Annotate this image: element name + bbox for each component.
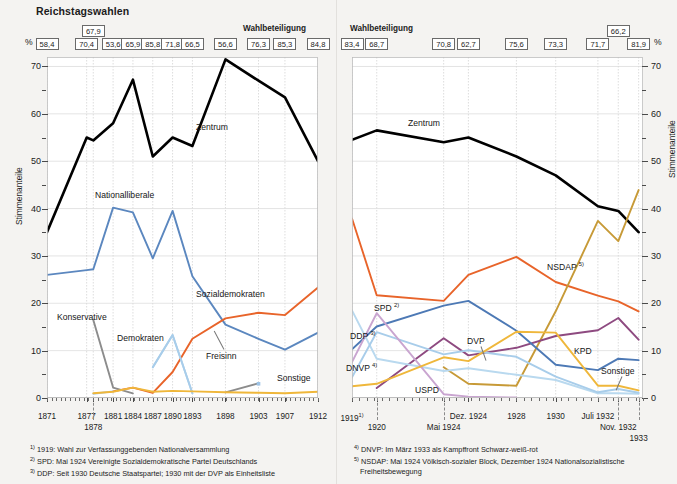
turnout-value-box: 76,3 — [247, 38, 270, 50]
series-label-sonstige: Sonstige — [277, 373, 310, 383]
x-minor-tick — [561, 398, 562, 401]
x-minor-tick — [258, 398, 259, 401]
y-tick-mark — [42, 256, 48, 257]
x-minor-tick — [231, 398, 232, 401]
turnout-value-box: 70,8 — [432, 38, 455, 50]
x-minor-tick — [70, 398, 71, 401]
footnote-item: 4) DNVP: Im März 1933 als Kampffront Sch… — [354, 443, 625, 455]
turnout-value-box: 75,6 — [505, 38, 528, 50]
footnote-item: 5) NSDAP: Mai 1924 Völkisch-sozialer Blo… — [354, 455, 625, 467]
y-tick-label: 10 — [19, 346, 41, 356]
x-minor-tick — [240, 398, 241, 401]
y-tick-label: 50 — [651, 156, 661, 166]
x-minor-tick — [116, 398, 117, 401]
x-tick-label: 1920 — [368, 423, 386, 432]
x-tick-label: Juli 1932 — [582, 412, 615, 421]
turnout-value-box: 68,7 — [365, 38, 388, 50]
x-minor-tick — [389, 398, 390, 401]
x-minor-tick — [295, 398, 296, 401]
x-minor-tick — [313, 398, 314, 401]
x-tick-label: 1871 — [38, 412, 56, 421]
x-tick-label: 1890 — [163, 412, 181, 421]
x-minor-tick — [222, 398, 223, 401]
footnote-item: 2) SPD: Mai 1924 Vereinigte Sozialdemokr… — [30, 455, 275, 467]
y-tick-mark — [642, 185, 646, 186]
y-tick-mark — [42, 138, 46, 139]
turnout-value-box: 71,7 — [586, 38, 609, 50]
y-tick-mark — [642, 209, 648, 210]
x-minor-tick — [539, 398, 540, 401]
x-tick-label: 1930 — [547, 412, 565, 421]
y-tick-mark — [42, 114, 48, 115]
x-tick-label: 1898 — [216, 412, 234, 421]
turnout-value-box: 73,3 — [544, 38, 567, 50]
x-minor-tick — [88, 398, 89, 401]
x-minor-tick — [546, 398, 547, 401]
series-label-freisinn: Freisinn — [206, 351, 237, 361]
footnotes-right: 4) DNVP: Im März 1933 als Kampffront Sch… — [354, 443, 625, 477]
series-label-sozialdemokraten: Sozialdemokraten — [196, 289, 265, 299]
y-tick-mark — [42, 374, 46, 375]
turnout-value-box: 62,7 — [457, 38, 480, 50]
y-tick-mark — [642, 66, 648, 67]
x-minor-tick — [254, 398, 255, 401]
x-minor-tick — [180, 398, 181, 401]
footnote-item: Freiheitsbewegung — [354, 467, 625, 477]
x-minor-tick — [449, 398, 450, 401]
x-minor-tick — [591, 398, 592, 401]
weimar-panel: 83,468,770,862,775,673,371,766,281,9 % W… — [336, 0, 673, 484]
x-minor-tick — [267, 398, 268, 401]
x-minor-tick — [130, 398, 131, 401]
x-minor-tick — [553, 398, 554, 401]
x-tick-label: 1887 — [144, 412, 162, 421]
y-tick-mark — [42, 209, 48, 210]
x-minor-tick — [309, 398, 310, 401]
page-title: Reichstagswahlen — [36, 5, 129, 17]
x-minor-tick — [304, 398, 305, 401]
x-minor-tick — [352, 398, 353, 401]
turnout-value-box: 70,4 — [75, 38, 98, 50]
x-minor-tick — [185, 398, 186, 401]
turnout-value-box: 66,2 — [607, 25, 630, 37]
y-tick-mark — [642, 374, 646, 375]
series-label-dvp: DVP — [467, 336, 485, 346]
x-minor-tick — [245, 398, 246, 401]
x-minor-tick — [65, 398, 66, 401]
y-tick-mark — [42, 327, 46, 328]
x-tick-label: 1881 — [104, 412, 122, 421]
x-minor-tick — [194, 398, 195, 401]
y-tick-mark — [642, 327, 646, 328]
x-minor-tick — [382, 398, 383, 401]
x-minor-tick — [300, 398, 301, 401]
y-tick-label: 40 — [19, 204, 41, 214]
series-label-dnvp: DNVP 4) — [346, 362, 377, 373]
y-tick-mark — [642, 114, 648, 115]
x-minor-tick — [176, 398, 177, 401]
x-tick-mark — [113, 398, 114, 402]
x-tick-label: 1893 — [183, 412, 201, 421]
x-tick-connector — [93, 398, 94, 420]
x-minor-tick — [434, 398, 435, 401]
x-minor-tick — [277, 398, 278, 401]
x-minor-tick — [56, 398, 57, 401]
x-minor-tick — [171, 398, 172, 401]
x-minor-tick — [643, 398, 644, 401]
x-minor-tick — [456, 398, 457, 401]
turnout-value-box: 85,3 — [273, 38, 296, 50]
x-minor-tick — [598, 398, 599, 401]
y-tick-mark — [642, 280, 646, 281]
y-tick-label: 30 — [651, 251, 661, 261]
kaiserreich-panel: Reichstagswahlen 58,470,467,953,665,985,… — [0, 0, 336, 484]
x-tick-label: 1912 — [309, 412, 327, 421]
x-minor-tick — [134, 398, 135, 401]
turnout-row-left: 58,470,467,953,665,985,871,866,556,676,3… — [0, 38, 336, 51]
x-minor-tick — [404, 398, 405, 401]
x-minor-tick — [212, 398, 213, 401]
x-minor-tick — [47, 398, 48, 401]
x-minor-tick — [263, 398, 264, 401]
x-minor-tick — [111, 398, 112, 401]
y-tick-label: 0 — [651, 393, 656, 403]
x-tick-mark — [556, 398, 557, 402]
turnout-row-right: 83,468,770,862,775,673,371,766,281,9 — [336, 38, 673, 51]
x-tick-connector — [444, 398, 445, 420]
